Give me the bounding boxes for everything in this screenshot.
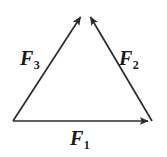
force-triangle-figure: F1 F2 F3 [0, 0, 167, 157]
vector-label-f3-subscript: 3 [34, 58, 40, 72]
vector-label-f1-base: F [70, 127, 84, 149]
vector-label-f2: F2 [119, 48, 139, 71]
vector-label-f1: F1 [70, 128, 90, 151]
vector-label-f1-subscript: 1 [84, 138, 90, 152]
vector-label-f3: F3 [20, 48, 40, 71]
vector-label-f2-base: F [119, 47, 133, 69]
vector-label-f3-base: F [20, 47, 34, 69]
vector-label-f2-subscript: 2 [133, 58, 139, 72]
